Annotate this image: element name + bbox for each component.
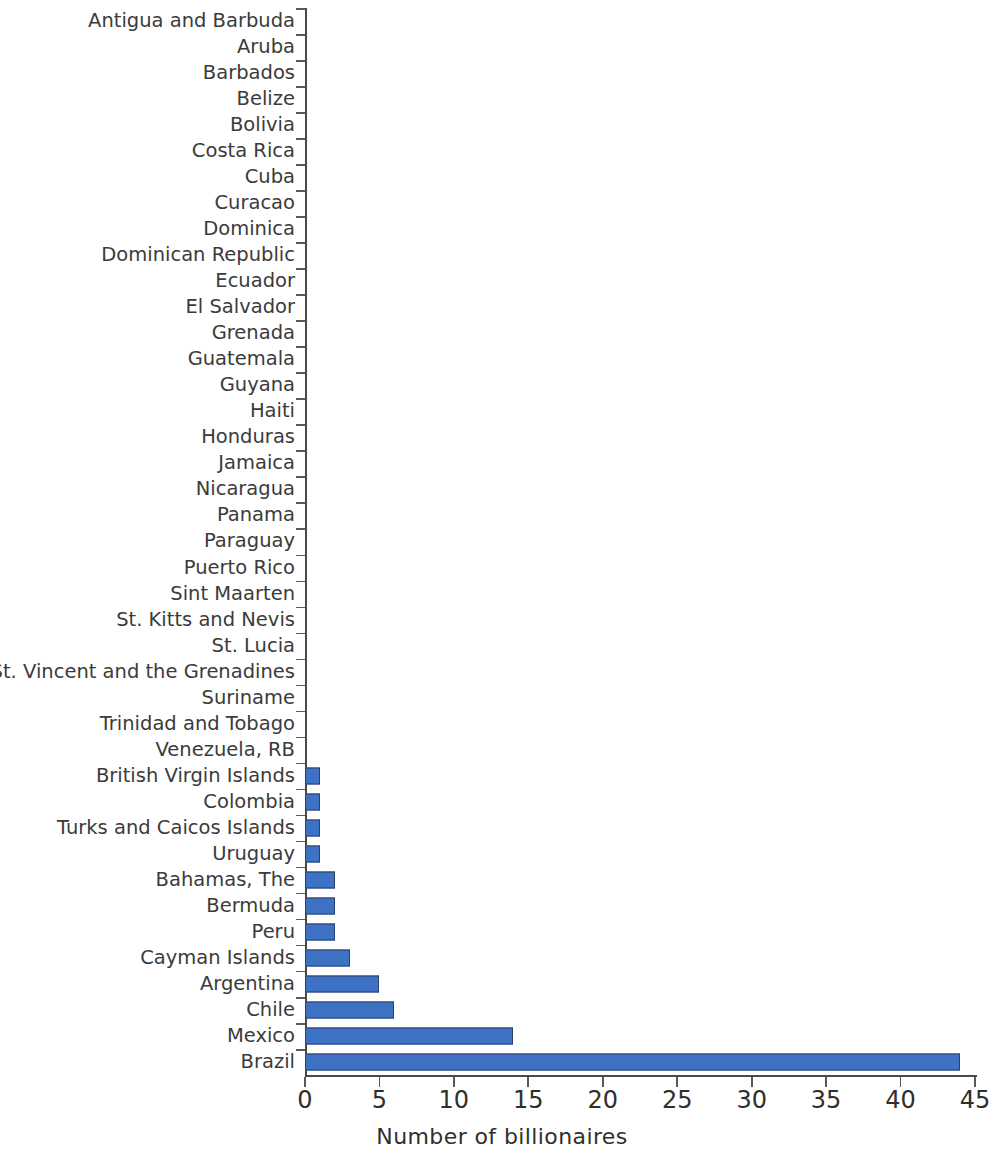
- y-axis-tick-label: St. Vincent and the Grenadines: [0, 662, 295, 682]
- bar-row: Cuba: [305, 164, 975, 190]
- bar-row: Argentina: [305, 971, 975, 997]
- y-axis-tick-label: Trinidad and Tobago: [100, 714, 295, 734]
- y-axis-tick-label: Venezuela, RB: [156, 740, 295, 760]
- y-axis-tick-label: British Virgin Islands: [96, 766, 295, 786]
- bar-row: Brazil: [305, 1049, 975, 1075]
- y-axis-tick-label: Cayman Islands: [140, 948, 295, 968]
- bar-row: Mexico: [305, 1023, 975, 1049]
- y-axis-tick-label: Suriname: [202, 688, 295, 708]
- y-axis-tick: [296, 34, 305, 36]
- bar-row: Guatemala: [305, 346, 975, 372]
- y-axis-tick: [296, 424, 305, 426]
- y-axis-tick: [296, 268, 305, 270]
- x-axis-tick-label: 20: [587, 1088, 618, 1112]
- bar-row: Aruba: [305, 34, 975, 60]
- bar-row: Antigua and Barbuda: [305, 8, 975, 34]
- y-axis-tick: [296, 372, 305, 374]
- bar-row: St. Vincent and the Grenadines: [305, 659, 975, 685]
- y-axis-tick-label: El Salvador: [186, 298, 296, 318]
- y-axis-tick-label: Brazil: [241, 1052, 295, 1072]
- bar-row: Grenada: [305, 320, 975, 346]
- bar: [305, 793, 320, 810]
- y-axis-tick: [296, 919, 305, 921]
- y-axis-tick: [296, 320, 305, 322]
- bar-row: Puerto Rico: [305, 555, 975, 581]
- bar-row: Chile: [305, 997, 975, 1023]
- y-axis-tick: [296, 997, 305, 999]
- y-axis-tick-label: Dominican Republic: [101, 245, 295, 265]
- bar: [305, 949, 350, 966]
- bar-row: Bahamas, The: [305, 867, 975, 893]
- bar-chart-figure: Antigua and BarbudaArubaBarbadosBelizeBo…: [0, 0, 1004, 1158]
- bar-row: Turks and Caicos Islands: [305, 815, 975, 841]
- y-axis-tick-label: Guatemala: [188, 350, 295, 370]
- bar-row: Suriname: [305, 685, 975, 711]
- bar: [305, 819, 320, 836]
- bar-row: Ecuador: [305, 268, 975, 294]
- bar-row: Panama: [305, 502, 975, 528]
- bar: [305, 1001, 394, 1018]
- bar-row: Dominican Republic: [305, 242, 975, 268]
- y-axis-tick: [296, 555, 305, 557]
- y-axis-tick-label: Panama: [217, 506, 295, 526]
- y-axis-tick-label: Antigua and Barbuda: [88, 11, 295, 31]
- x-axis-tick-label: 5: [372, 1088, 387, 1112]
- y-axis-tick-label: Jamaica: [218, 454, 295, 474]
- x-axis-tick-label: 30: [736, 1088, 767, 1112]
- y-axis-tick-label: Colombia: [203, 792, 295, 812]
- bar-row: Sint Maarten: [305, 581, 975, 607]
- bar-row: Jamaica: [305, 450, 975, 476]
- y-axis-tick: [296, 60, 305, 62]
- y-axis-tick-label: Peru: [252, 922, 295, 942]
- y-axis-tick: [296, 502, 305, 504]
- x-axis-tick-label: 25: [662, 1088, 693, 1112]
- y-axis-tick: [296, 711, 305, 713]
- bar-row: Peru: [305, 919, 975, 945]
- y-axis-tick: [296, 294, 305, 296]
- bar-row: Barbados: [305, 60, 975, 86]
- bar-row: Belize: [305, 86, 975, 112]
- bar: [305, 1053, 960, 1070]
- y-axis-tick: [296, 476, 305, 478]
- bar-row: Paraguay: [305, 528, 975, 554]
- y-axis-tick-label: St. Lucia: [212, 636, 295, 656]
- x-axis-tick-label: 45: [960, 1088, 991, 1112]
- y-axis-tick: [296, 633, 305, 635]
- y-axis-tick: [296, 763, 305, 765]
- y-axis-tick: [296, 242, 305, 244]
- bar-row: Trinidad and Tobago: [305, 711, 975, 737]
- y-axis-tick-label: Honduras: [201, 428, 295, 448]
- bar-row: Venezuela, RB: [305, 737, 975, 763]
- y-axis-tick-label: Sint Maarten: [170, 584, 295, 604]
- y-axis-tick-label: Costa Rica: [192, 141, 295, 161]
- y-axis-tick: [296, 1023, 305, 1025]
- y-axis-tick-label: Curacao: [214, 193, 295, 213]
- y-axis-tick-label: Bahamas, The: [156, 870, 295, 890]
- y-axis-tick: [296, 346, 305, 348]
- y-axis-tick-label: Paraguay: [204, 532, 295, 552]
- bar: [305, 767, 320, 784]
- x-axis-tick-label: 10: [439, 1088, 470, 1112]
- bar-row: Curacao: [305, 190, 975, 216]
- bar-row: Costa Rica: [305, 138, 975, 164]
- y-axis-tick-label: Grenada: [212, 324, 295, 344]
- y-axis-tick-label: Bermuda: [206, 896, 295, 916]
- bar-row: Uruguay: [305, 841, 975, 867]
- bar-row: St. Kitts and Nevis: [305, 607, 975, 633]
- y-axis-tick: [296, 450, 305, 452]
- y-axis-tick: [296, 138, 305, 140]
- y-axis-tick: [296, 190, 305, 192]
- x-axis-tick-label: 0: [297, 1088, 312, 1112]
- y-axis-tick-label: Nicaragua: [196, 480, 295, 500]
- y-axis-tick: [296, 685, 305, 687]
- y-axis-tick: [296, 164, 305, 166]
- y-axis-tick: [296, 867, 305, 869]
- y-axis-tick: [296, 945, 305, 947]
- bar: [305, 871, 335, 888]
- x-axis-spine: [305, 1075, 977, 1077]
- bar: [305, 897, 335, 914]
- y-axis-tick-label: Dominica: [203, 219, 295, 239]
- y-axis-tick: [296, 789, 305, 791]
- bar-row: Guyana: [305, 372, 975, 398]
- y-axis-tick: [296, 216, 305, 218]
